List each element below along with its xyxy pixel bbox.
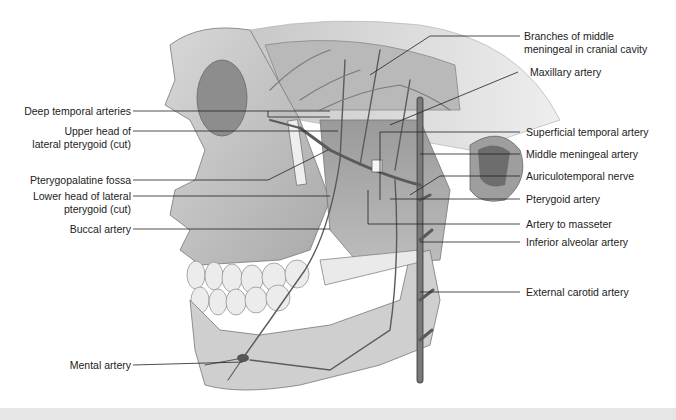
label-line: Deep temporal arteries [24, 105, 131, 118]
label-line: lateral pterygoid (cut) [32, 138, 131, 151]
anatomy-figure: Deep temporal arteries Upper head of lat… [0, 0, 676, 420]
label-line: Lower head of lateral [33, 190, 131, 203]
label-line: Mental artery [70, 359, 131, 372]
label-lower-head-lateral-pterygoid: Lower head of lateral pterygoid (cut) [33, 190, 131, 216]
label-line: Branches of middle [524, 30, 647, 43]
label-line: pterygoid (cut) [33, 203, 131, 216]
label-line: Pterygoid artery [526, 193, 600, 206]
bottom-divider [0, 408, 676, 420]
label-pterygoid-artery: Pterygoid artery [526, 193, 600, 206]
label-auriculotemporal-nerve: Auriculotemporal nerve [526, 170, 634, 183]
label-line: Inferior alveolar artery [526, 236, 628, 249]
label-inferior-alveolar-artery: Inferior alveolar artery [526, 236, 628, 249]
label-pterygopalatine-fossa: Pterygopalatine fossa [30, 174, 131, 187]
label-line: Middle meningeal artery [526, 148, 638, 161]
label-line: Buccal artery [70, 223, 131, 236]
label-line: Superficial temporal artery [526, 126, 649, 139]
label-middle-meningeal-artery: Middle meningeal artery [526, 148, 638, 161]
label-line: Auriculotemporal nerve [526, 170, 634, 183]
label-mental-artery: Mental artery [70, 359, 131, 372]
label-line: Upper head of [32, 125, 131, 138]
label-external-carotid-artery: External carotid artery [526, 286, 629, 299]
label-line: meningeal in cranial cavity [524, 43, 647, 56]
label-buccal-artery: Buccal artery [70, 223, 131, 236]
label-deep-temporal-arteries: Deep temporal arteries [24, 105, 131, 118]
label-line: Pterygopalatine fossa [30, 174, 131, 187]
label-artery-to-masseter: Artery to masseter [526, 218, 612, 231]
label-superficial-temporal-artery: Superficial temporal artery [526, 126, 649, 139]
label-line: Maxillary artery [530, 66, 601, 79]
label-line: Artery to masseter [526, 218, 612, 231]
label-upper-head-lateral-pterygoid: Upper head of lateral pterygoid (cut) [32, 125, 131, 151]
label-branches-middle-meningeal: Branches of middle meningeal in cranial … [524, 30, 647, 56]
label-maxillary-artery: Maxillary artery [530, 66, 601, 79]
label-line: External carotid artery [526, 286, 629, 299]
